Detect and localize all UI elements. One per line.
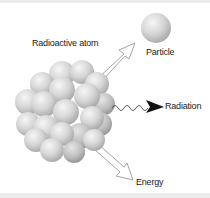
radioactive-atom-label: Radioactive atom (32, 38, 98, 48)
radioactive-decay-diagram (0, 0, 210, 198)
radiation-wave-icon (112, 100, 164, 113)
particle-sphere (141, 13, 171, 43)
bottom-band (0, 193, 210, 198)
particle-label: Particle (146, 47, 174, 57)
energy-arrow-icon (94, 144, 133, 180)
radioactive-atom-nucleus (15, 60, 115, 163)
radiation-label: Radiation (165, 101, 201, 111)
energy-label: Energy (136, 177, 163, 187)
